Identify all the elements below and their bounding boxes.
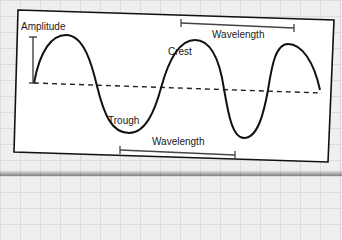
wavelength-label-top: Wavelength <box>212 29 264 40</box>
trough-label: Trough <box>108 115 139 126</box>
wave-diagram: Amplitude Wavelength Crest Trough Wavele… <box>0 0 342 176</box>
amplitude-label: Amplitude <box>21 21 66 32</box>
crest-label: Crest <box>168 46 192 57</box>
wavelength-label-bottom: Wavelength <box>152 136 204 147</box>
